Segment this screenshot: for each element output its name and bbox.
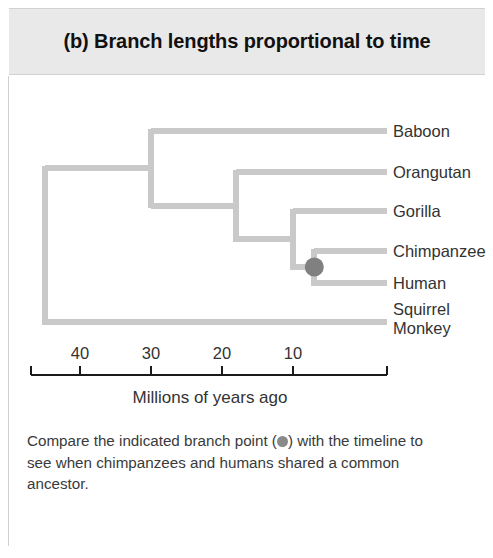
figure-panel: (b) Branch lengths proportional to time … <box>0 0 493 558</box>
tip-label-human: Human <box>393 274 446 293</box>
figure-caption: Compare the indicated branch point () wi… <box>27 430 447 495</box>
tip-label-baboon: Baboon <box>393 122 450 141</box>
tick-label-30: 30 <box>142 344 160 363</box>
tip-label-orangutan: Orangutan <box>393 163 471 182</box>
filled-circle-icon <box>277 436 288 447</box>
tip-label-gorilla: Gorilla <box>393 202 441 221</box>
tick-label-40: 40 <box>71 344 89 363</box>
tip-label-chimpanzee: Chimpanzee <box>393 242 486 261</box>
tick-label-10: 10 <box>284 344 302 363</box>
caption-text-before: Compare the indicated branch point ( <box>27 432 277 449</box>
axis-title: Millions of years ago <box>0 388 420 408</box>
tree-branches <box>45 129 388 325</box>
tip-label-squirrel-monkey: Squirrel Monkey <box>393 300 488 338</box>
time-axis <box>31 366 387 375</box>
tick-label-20: 20 <box>213 344 231 363</box>
branch-point-marker <box>305 258 324 277</box>
